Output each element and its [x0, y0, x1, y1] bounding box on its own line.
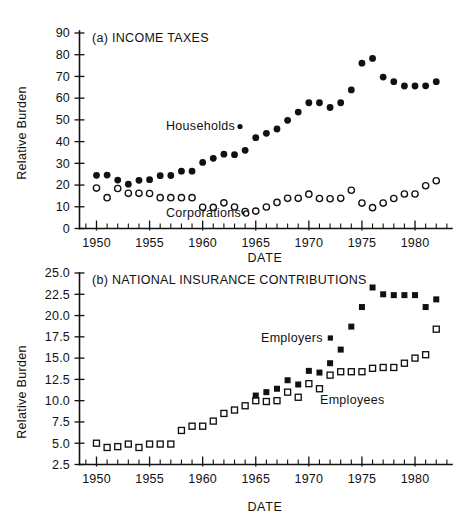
- data-point-employees: [178, 427, 184, 433]
- data-point-households: [390, 78, 397, 85]
- data-point-employers: [370, 284, 376, 290]
- panel-b-series-label-employers: Employers: [261, 331, 323, 345]
- data-point-employees: [285, 389, 291, 395]
- data-point-employees: [200, 423, 206, 429]
- y-tick-label: 80: [56, 48, 70, 62]
- y-tick-label: 20.0: [45, 309, 70, 323]
- data-point-households: [401, 83, 408, 90]
- data-point-employees: [391, 364, 397, 370]
- data-point-households: [369, 55, 376, 62]
- data-point-employees: [232, 407, 238, 413]
- data-point-households: [157, 172, 164, 179]
- data-point-households: [422, 82, 429, 89]
- data-point-employers: [401, 292, 407, 298]
- data-point-employees: [242, 403, 248, 409]
- data-point-corporations: [274, 199, 280, 205]
- y-tick-label: 70: [56, 70, 70, 84]
- data-point-employees: [253, 398, 259, 404]
- data-point-corporations: [391, 195, 397, 201]
- data-point-employees: [157, 441, 163, 447]
- data-point-corporations: [104, 195, 110, 201]
- data-point-employers: [327, 360, 333, 366]
- data-point-households: [316, 99, 323, 106]
- data-point-corporations: [348, 187, 354, 193]
- data-point-households: [114, 177, 121, 184]
- data-point-corporations: [93, 185, 99, 191]
- data-point-corporations: [369, 204, 375, 210]
- data-point-corporations: [168, 195, 174, 201]
- data-point-households: [263, 130, 270, 137]
- data-point-corporations: [263, 204, 269, 210]
- data-point-employees: [359, 369, 365, 375]
- x-tick-label: 1960: [188, 236, 217, 250]
- x-tick-label: 1970: [295, 236, 324, 250]
- data-point-employees: [147, 441, 153, 447]
- data-point-corporations: [338, 195, 344, 201]
- data-point-employees: [136, 444, 142, 450]
- data-point-corporations: [146, 190, 152, 196]
- y-tick-label: 40: [56, 135, 70, 149]
- data-point-households: [178, 168, 185, 175]
- data-point-employers: [348, 324, 354, 330]
- y-tick-label: 17.5: [45, 330, 70, 344]
- panel-a-x-tick-labels: 1950195519601965197019751980: [82, 236, 429, 250]
- data-point-employees: [168, 441, 174, 447]
- data-point-corporations: [115, 185, 121, 191]
- data-point-employees: [115, 444, 121, 450]
- data-point-corporations: [157, 195, 163, 201]
- data-point-employers: [423, 304, 429, 310]
- y-tick-label: 12.5: [45, 373, 70, 387]
- data-point-corporations: [412, 191, 418, 197]
- x-tick-label: 1955: [135, 236, 164, 250]
- data-point-corporations: [125, 190, 131, 196]
- data-point-corporations: [306, 191, 312, 197]
- panel-a-legend-glyph-corporations: [244, 211, 249, 216]
- data-point-households: [210, 155, 217, 162]
- data-point-corporations: [295, 195, 301, 201]
- data-point-employees: [210, 418, 216, 424]
- y-tick-label: 15.0: [45, 351, 70, 365]
- y-tick-label: 20: [56, 178, 70, 192]
- data-point-corporations: [136, 190, 142, 196]
- y-tick-label: 30: [56, 157, 70, 171]
- panel-a-series-label-corporations: Corporations: [166, 206, 241, 220]
- data-point-corporations: [380, 200, 386, 206]
- data-point-employees: [401, 360, 407, 366]
- y-tick-label: 10: [56, 200, 70, 214]
- x-tick-label: 1975: [348, 236, 377, 250]
- chart-panel-income-taxes: Relative Burden (a) INCOME TAXES 0102030…: [0, 0, 462, 265]
- data-point-employers: [285, 377, 291, 383]
- data-point-employers: [253, 393, 259, 399]
- data-point-employees: [327, 372, 333, 378]
- data-point-employers: [263, 389, 269, 395]
- data-point-employers: [338, 347, 344, 353]
- data-point-households: [327, 104, 334, 111]
- data-point-employers: [316, 370, 322, 376]
- data-point-households: [252, 134, 259, 141]
- panel-a-series-corporations-markers: [93, 178, 439, 215]
- x-tick-label: 1980: [401, 472, 430, 486]
- x-tick-label: 1960: [188, 472, 217, 486]
- data-point-employees: [380, 364, 386, 370]
- data-point-households: [136, 177, 143, 184]
- panel-b-x-axis-title: DATE: [247, 500, 282, 514]
- x-tick-label: 1980: [401, 236, 430, 250]
- data-point-employees: [338, 369, 344, 375]
- data-point-employees: [433, 326, 439, 332]
- data-point-households: [93, 172, 100, 179]
- data-point-corporations: [253, 208, 259, 214]
- panel-b-y-tick-labels: 2.55.07.510.012.515.017.520.022.525.0: [45, 266, 70, 472]
- data-point-employees: [306, 381, 312, 387]
- panel-b-y-axis-title: Relative Burden: [15, 345, 29, 438]
- x-tick-label: 1965: [241, 236, 270, 250]
- x-tick-label: 1965: [241, 472, 270, 486]
- data-point-corporations: [316, 195, 322, 201]
- data-point-employees: [295, 394, 301, 400]
- data-point-households: [242, 147, 249, 154]
- y-tick-label: 7.5: [52, 415, 70, 429]
- data-point-households: [412, 83, 419, 90]
- panel-b-x-tick-labels: 1950195519601965197019751980: [82, 472, 429, 486]
- data-point-corporations: [178, 195, 184, 201]
- y-tick-label: 2.5: [52, 458, 70, 472]
- x-tick-label: 1950: [82, 236, 111, 250]
